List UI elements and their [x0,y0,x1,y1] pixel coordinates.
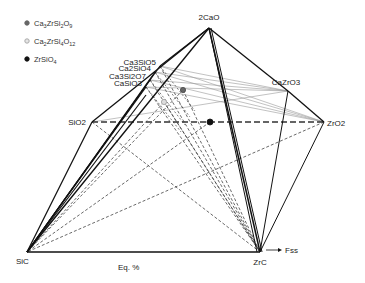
tie-line [27,90,183,252]
legend-item-label: Ca3ZrSi2O9 [34,19,72,29]
vertex-cazro3: CaZrO3 [272,78,301,87]
tie-line [260,91,288,252]
phase-diagram: 2CaOSiO2ZrO2CaZrO3SiCZrCFssEq. %Ca3SiO5C… [0,0,365,283]
legend-item-label: ZrSiO4 [34,55,57,65]
tie-line [211,28,262,252]
ca3zrsi2o9-point [180,87,185,92]
vertex-sio2: SiO2 [68,118,86,127]
axis-label: Eq. % [118,263,139,272]
tie-line [160,28,209,66]
tie-line [27,122,92,252]
zrsio4-point [207,119,213,125]
tie-line-zro2 [160,66,324,122]
legend-item-label: Ca2ZrSi4O12 [34,37,75,47]
vertex-2cao: 2CaO [199,13,220,22]
vertex-zro2: ZrO2 [327,119,346,128]
legend-marker-icon [25,39,29,43]
tie-line [183,90,260,252]
tie-line [27,102,164,252]
fss-label: Fss [285,246,298,255]
legend-marker-icon [25,21,29,25]
tie-line [27,122,210,252]
tie-line [260,122,324,252]
vertex-zrc: ZrC [253,258,267,267]
dashed-tie-zrc [160,66,260,252]
ca2zrsi4o12-point [161,99,166,104]
vertex-sic: SiC [16,257,29,266]
silicate-label: CaSiO3 [114,79,143,88]
tie-line-zro2 [146,87,324,122]
sic-silicate-line [27,87,146,252]
arrow-head-icon [278,248,282,252]
tie-line [146,87,181,132]
tie-line [27,95,146,252]
legend-marker-icon [25,57,29,61]
